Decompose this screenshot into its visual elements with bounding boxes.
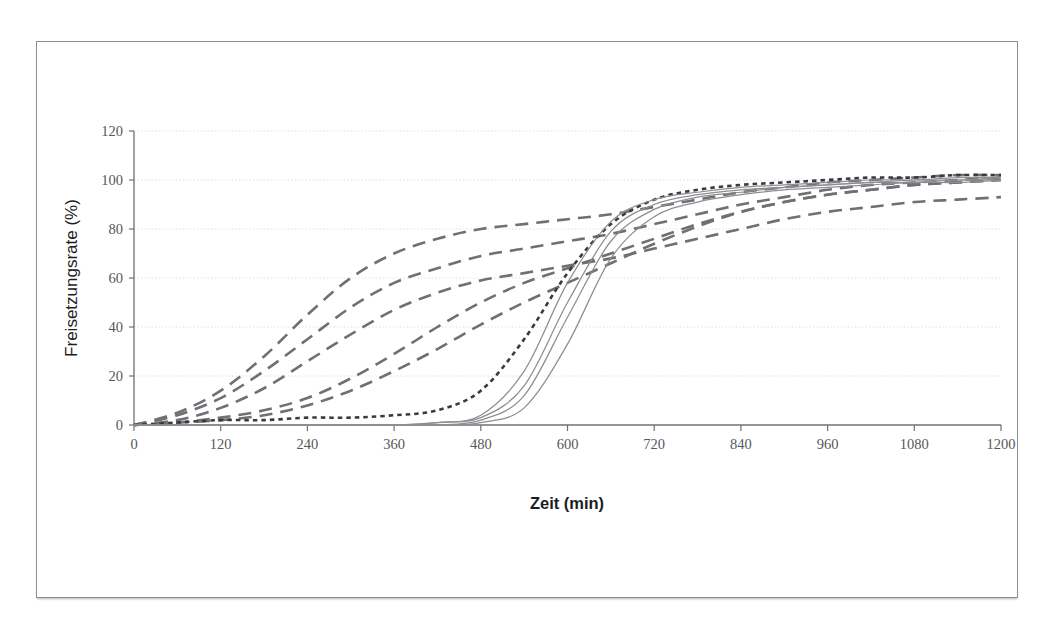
y-axis-title: Freisetzungsrate (%) [62, 199, 81, 357]
x-tick-label-0: 0 [130, 436, 137, 452]
y-tick-label-120: 120 [101, 123, 123, 139]
x-axis-title: Zeit (min) [530, 494, 604, 512]
y-tick-labels: 020406080100120 [101, 123, 123, 433]
y-tick-label-60: 60 [109, 270, 124, 286]
x-tick-label-240: 240 [297, 436, 319, 452]
figure-frame: 012024036048060072084096010801200 020406… [36, 41, 1018, 598]
series-line-dashed-medium [134, 197, 1001, 425]
y-tick-label-0: 0 [116, 417, 123, 433]
axis-ticks [129, 131, 1001, 431]
data-series-group [134, 175, 1001, 425]
y-tick-label-100: 100 [101, 172, 123, 188]
x-tick-label-1200: 1200 [987, 436, 1016, 452]
y-tick-label-20: 20 [109, 368, 124, 384]
x-tick-label-360: 360 [383, 436, 405, 452]
x-tick-label-480: 480 [470, 436, 492, 452]
x-tick-labels: 012024036048060072084096010801200 [130, 436, 1015, 452]
release-rate-chart: 012024036048060072084096010801200 020406… [37, 42, 1019, 599]
x-tick-label-120: 120 [210, 436, 232, 452]
y-tick-label-80: 80 [109, 221, 124, 237]
x-tick-label-840: 840 [730, 436, 752, 452]
y-tick-label-40: 40 [109, 319, 124, 335]
x-tick-label-960: 960 [817, 436, 839, 452]
x-tick-label-1080: 1080 [900, 436, 929, 452]
gridlines [134, 131, 1001, 376]
x-tick-label-600: 600 [557, 436, 579, 452]
chart-area: 012024036048060072084096010801200 020406… [37, 42, 1019, 599]
x-tick-label-720: 720 [643, 436, 665, 452]
